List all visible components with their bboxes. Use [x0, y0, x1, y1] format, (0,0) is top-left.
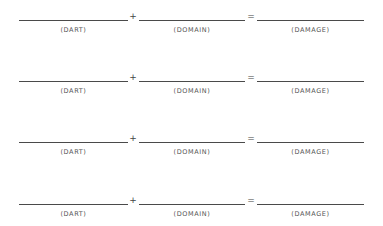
damage-label: (DAMAGE)	[257, 210, 364, 218]
damage-blank[interactable]	[257, 142, 364, 144]
damage-label: (DAMAGE)	[257, 87, 364, 95]
domain-blank[interactable]	[139, 81, 245, 83]
domain-label: (DOMAIN)	[139, 210, 245, 218]
equals-sign: =	[246, 133, 256, 143]
equals-sign: =	[246, 72, 256, 82]
domain-blank[interactable]	[139, 142, 245, 144]
plus-sign: +	[128, 195, 138, 205]
damage-blank[interactable]	[257, 20, 364, 22]
equation-row-4: + = (DART) (DOMAIN) (DAMAGE)	[0, 204, 383, 226]
dart-label: (DART)	[19, 148, 128, 156]
dart-label: (DART)	[19, 210, 128, 218]
domain-blank[interactable]	[139, 204, 245, 206]
plus-sign: +	[128, 11, 138, 21]
domain-label: (DOMAIN)	[139, 148, 245, 156]
domain-label: (DOMAIN)	[139, 26, 245, 34]
equation-row-1: + = (DART) (DOMAIN) (DAMAGE)	[0, 20, 383, 50]
damage-label: (DAMAGE)	[257, 148, 364, 156]
domain-label: (DOMAIN)	[139, 87, 245, 95]
dart-label: (DART)	[19, 87, 128, 95]
equals-sign: =	[246, 11, 256, 21]
damage-label: (DAMAGE)	[257, 26, 364, 34]
dart-blank[interactable]	[19, 81, 128, 83]
dart-blank[interactable]	[19, 20, 128, 22]
dart-blank[interactable]	[19, 204, 128, 206]
damage-blank[interactable]	[257, 204, 364, 206]
domain-blank[interactable]	[139, 20, 245, 22]
plus-sign: +	[128, 133, 138, 143]
plus-sign: +	[128, 72, 138, 82]
dart-blank[interactable]	[19, 142, 128, 144]
equals-sign: =	[246, 195, 256, 205]
equation-row-3: + = (DART) (DOMAIN) (DAMAGE)	[0, 142, 383, 172]
equation-row-2: + = (DART) (DOMAIN) (DAMAGE)	[0, 81, 383, 111]
damage-blank[interactable]	[257, 81, 364, 83]
dart-label: (DART)	[19, 26, 128, 34]
